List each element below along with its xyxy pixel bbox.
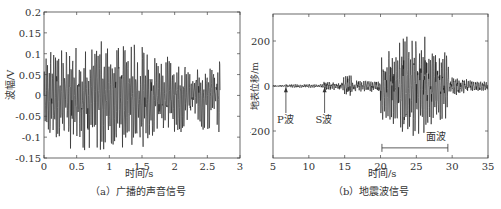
svg-text:5: 5	[270, 161, 276, 172]
svg-text:面波: 面波	[426, 130, 446, 142]
svg-text:10: 10	[302, 161, 315, 172]
svg-text:0: 0	[41, 161, 47, 172]
chart-a-caption: （a）广播的声音信号	[90, 183, 186, 198]
svg-text:-0.1: -0.1	[22, 132, 41, 143]
chart-b-xlabel: 时间/s	[368, 165, 397, 180]
chart-b-caption: （b）地震波信号	[333, 183, 409, 198]
chart-a-plot: 00.511.522.530.20.150.10.050-0.05-0.1-0.…	[0, 0, 250, 185]
svg-text:-0.15: -0.15	[15, 153, 41, 164]
svg-text:2.5: 2.5	[199, 161, 215, 172]
chart-a-sound-signal: 00.511.522.530.20.150.10.050-0.05-0.1-0.…	[0, 0, 250, 209]
svg-text:0.2: 0.2	[25, 7, 41, 18]
svg-text:35: 35	[482, 161, 495, 172]
svg-text:2: 2	[171, 161, 177, 172]
chart-b-seismic-signal: 51015202530352000-200地表位移/mP波S波面波 时间/s （…	[250, 0, 501, 209]
svg-text:3: 3	[237, 161, 243, 172]
svg-text:30: 30	[446, 161, 459, 172]
svg-text:0: 0	[264, 81, 270, 92]
svg-text:0.5: 0.5	[69, 161, 85, 172]
svg-text:25: 25	[410, 161, 423, 172]
svg-text:波幅/V: 波幅/V	[4, 69, 16, 100]
svg-text:地表位移/m: 地表位移/m	[250, 62, 260, 110]
svg-text:200: 200	[251, 36, 270, 47]
svg-text:0.05: 0.05	[19, 70, 41, 81]
svg-text:-200: -200	[250, 126, 270, 137]
svg-text:0: 0	[35, 90, 41, 101]
svg-text:15: 15	[338, 161, 351, 172]
svg-text:1: 1	[106, 161, 112, 172]
chart-b-plot: 51015202530352000-200地表位移/mP波S波面波	[250, 0, 501, 185]
svg-text:-0.05: -0.05	[15, 111, 41, 122]
svg-text:0.1: 0.1	[25, 49, 41, 60]
svg-text:0.15: 0.15	[19, 28, 41, 39]
svg-text:P波: P波	[277, 113, 294, 125]
chart-a-xlabel: 时间/s	[125, 165, 154, 180]
svg-text:S波: S波	[316, 113, 333, 125]
